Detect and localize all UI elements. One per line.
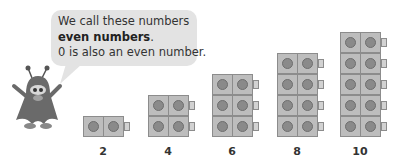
linking-cube xyxy=(360,32,381,53)
bubble-line-2: even numbers. xyxy=(58,30,206,46)
linking-cube xyxy=(277,74,298,95)
cube-dot xyxy=(345,121,356,132)
cube-dot xyxy=(217,121,228,132)
cube-connector xyxy=(318,101,324,110)
cube-connector xyxy=(189,122,195,131)
linking-cube xyxy=(212,116,233,137)
cube-dot xyxy=(217,79,228,90)
linking-cube xyxy=(148,95,169,116)
bubble-line-3: 0 is also an even number. xyxy=(58,45,206,61)
linking-cube xyxy=(212,95,233,116)
cube-dot xyxy=(282,121,293,132)
stack-label: 10 xyxy=(345,145,375,158)
cube-dot xyxy=(302,121,313,132)
linking-cube xyxy=(232,74,253,95)
linking-cube xyxy=(83,116,104,137)
cube-dot xyxy=(365,121,376,132)
stack-label: 2 xyxy=(88,145,118,158)
cube-dot xyxy=(365,100,376,111)
linking-cube xyxy=(360,116,381,137)
cube-dot xyxy=(282,79,293,90)
linking-cube xyxy=(168,95,189,116)
cube-dot xyxy=(365,58,376,69)
linking-cube xyxy=(297,116,318,137)
cube-dot xyxy=(237,79,248,90)
cube-dot xyxy=(173,100,184,111)
cube-connector xyxy=(318,80,324,89)
cube-connector xyxy=(381,101,387,110)
linking-cube xyxy=(360,53,381,74)
linking-cube xyxy=(340,116,361,137)
linking-cube xyxy=(340,74,361,95)
cube-dot xyxy=(217,100,228,111)
even-numbers-term: even numbers xyxy=(58,30,150,44)
stack-label: 6 xyxy=(217,145,247,158)
cube-connector xyxy=(381,38,387,47)
linking-cube xyxy=(340,95,361,116)
cube-dot xyxy=(345,37,356,48)
stack-label: 8 xyxy=(282,145,312,158)
bubble-line-1: We call these numbers xyxy=(58,14,206,30)
linking-cube xyxy=(277,95,298,116)
cube-dot xyxy=(237,121,248,132)
cube-connector xyxy=(124,122,130,131)
cube-connector xyxy=(381,122,387,131)
stack-label: 4 xyxy=(153,145,183,158)
linking-cube xyxy=(340,32,361,53)
linking-cube xyxy=(277,53,298,74)
cube-dot xyxy=(345,79,356,90)
cube-dot xyxy=(173,121,184,132)
cube-dot xyxy=(88,121,99,132)
linking-cube xyxy=(277,116,298,137)
cube-dot xyxy=(153,121,164,132)
cube-connector xyxy=(381,80,387,89)
cube-dot xyxy=(365,79,376,90)
cube-connector xyxy=(253,122,259,131)
linking-cube xyxy=(212,74,233,95)
linking-cube xyxy=(232,95,253,116)
monster-mascot-icon xyxy=(8,64,68,134)
cube-connector xyxy=(189,101,195,110)
cube-connector xyxy=(381,59,387,68)
linking-cube xyxy=(148,116,169,137)
cube-dot xyxy=(282,58,293,69)
bubble-line-2-suffix: . xyxy=(150,30,154,44)
cube-connector xyxy=(253,101,259,110)
cube-dot xyxy=(302,100,313,111)
cube-dot xyxy=(153,100,164,111)
linking-cube xyxy=(360,74,381,95)
cube-dot xyxy=(365,37,376,48)
linking-cube xyxy=(168,116,189,137)
linking-cube xyxy=(297,95,318,116)
linking-cube xyxy=(297,74,318,95)
cube-dot xyxy=(237,100,248,111)
cube-dot xyxy=(108,121,119,132)
cube-connector xyxy=(253,80,259,89)
linking-cube xyxy=(360,95,381,116)
cube-dot xyxy=(345,100,356,111)
cube-connector xyxy=(318,122,324,131)
linking-cube xyxy=(340,53,361,74)
cube-dot xyxy=(282,100,293,111)
linking-cube xyxy=(232,116,253,137)
cube-dot xyxy=(302,79,313,90)
cube-connector xyxy=(318,59,324,68)
cube-dot xyxy=(302,58,313,69)
speech-bubble-text: We call these numbers even numbers. 0 is… xyxy=(58,14,206,61)
linking-cube xyxy=(103,116,124,137)
cube-dot xyxy=(345,58,356,69)
linking-cube xyxy=(297,53,318,74)
